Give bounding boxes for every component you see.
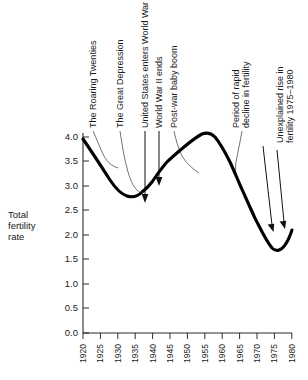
x-tick-label-9: 1965	[235, 344, 245, 363]
x-tick-label-6: 1950	[182, 344, 192, 363]
annotation-roaring-twenties: The Roaring Twenties	[88, 40, 98, 128]
y-tick-label-5: 2.5	[65, 204, 78, 215]
annotation-rapid-decline-line-1: Period of rapid	[231, 69, 241, 128]
annotation-great-depression: The Great Depression	[115, 39, 125, 128]
y-tick-label-1: 0.5	[65, 302, 78, 313]
y-tick-label-2: 1.0	[65, 278, 78, 289]
y-tick-label-3: 1.5	[65, 253, 78, 264]
x-tick-label-11: 1975	[269, 344, 279, 363]
y-axis-title-line-2: fertility	[8, 220, 36, 231]
annotation-us-enters-wwii: United States enters World War II	[140, 0, 150, 128]
x-tick-label-2: 1930	[113, 344, 123, 363]
annotation-unexplained-rise-line-2: fertility 1975–1980	[285, 69, 295, 143]
x-tick-label-1: 1925	[95, 344, 105, 363]
y-tick-label-4: 2.0	[65, 229, 78, 240]
x-tick-label-8: 1960	[217, 344, 227, 363]
annotation-rapid-decline-line-2: decline in fertility	[241, 61, 251, 128]
y-tick-label-6: 3.0	[65, 180, 78, 191]
fertility-rate-chart: Total fertility rate 0.0 0.5 1.0 1.5 2.0…	[0, 0, 308, 380]
y-axis-title-line-1: Total	[8, 209, 28, 220]
y-tick-label-7: 3.5	[65, 155, 78, 166]
x-tick-label-4: 1940	[148, 344, 158, 363]
x-tick-label-0: 1920	[78, 344, 88, 363]
x-tick-label-10: 1970	[252, 344, 262, 363]
annotation-postwar-baby-boom: Post-war baby boom	[169, 45, 179, 128]
y-axis-title-line-3: rate	[8, 231, 24, 242]
x-tick-label-7: 1955	[200, 344, 210, 363]
x-tick-label-3: 1935	[130, 344, 140, 363]
chart-canvas: Total fertility rate 0.0 0.5 1.0 1.5 2.0…	[0, 0, 308, 380]
y-tick-label-8: 4.0	[65, 131, 78, 142]
x-tick-label-12: 1980	[287, 344, 297, 363]
y-tick-label-0: 0.0	[65, 327, 78, 338]
annotation-wwii-ends: World War II ends	[154, 56, 164, 128]
x-tick-label-5: 1945	[165, 344, 175, 363]
annotation-unexplained-rise-line-1: Unexplained rise in	[275, 66, 285, 143]
